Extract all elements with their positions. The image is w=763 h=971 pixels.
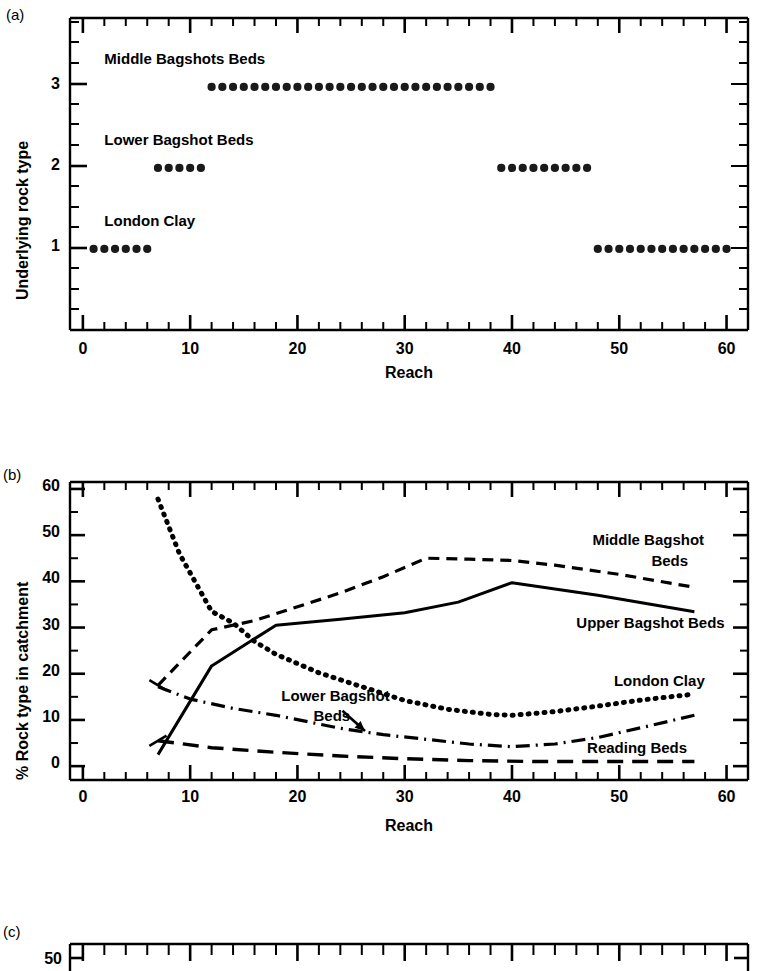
panel-b-y-tick-label: 10 (12, 708, 60, 726)
panel-a-annotation-label: London Clay (104, 212, 195, 229)
panel-a-x-tick-label: 30 (375, 340, 435, 358)
panel-a-x-tick-label: 20 (267, 340, 327, 358)
panel-b-x-tick-label: 40 (482, 788, 542, 806)
panel-a-y-tick-label: 3 (12, 75, 60, 93)
panel-a-x-tick-label: 0 (53, 340, 113, 358)
panel-a-x-tick-label: 10 (160, 340, 220, 358)
panel-a-y-minor-ticks (70, 22, 79, 330)
panel-b-annotation-label: Middle Bagshot (592, 531, 704, 548)
panel-b-x-tick-label: 60 (697, 788, 757, 806)
panel-b-annotation-label: London Clay (614, 672, 705, 689)
panel-b-x-tick-label: 20 (267, 788, 327, 806)
panel-b-x-tick-label: 30 (375, 788, 435, 806)
panel-b-x-tick-label: 10 (160, 788, 220, 806)
panel-a-y-major-ticks (70, 84, 87, 248)
panel-a-x-tick-label: 60 (697, 340, 757, 358)
panel-b: (b) % Rock type in catchment 01020304050… (0, 460, 763, 880)
panel-a-annotation-label: Middle Bagshots Beds (104, 50, 265, 67)
panel-b-x-tick-label: 50 (589, 788, 649, 806)
panel-a-x-tick-label: 40 (482, 340, 542, 358)
panel-b-y-tick-label: 50 (12, 523, 60, 541)
panel-b-x-axis-label: Reach (349, 817, 469, 835)
panel-a-annotation-label: Lower Bagshot Beds (104, 131, 253, 148)
series-line-upper-bagshot-beds (158, 583, 694, 755)
panel-b-y-tick-label: 40 (12, 569, 60, 587)
panel-b-y-tick-label: 30 (12, 616, 60, 634)
panel-b-y-tick-label: 20 (12, 662, 60, 680)
panel-c: (c) 50 (0, 905, 763, 971)
panel-a-x-axis-label: Reach (349, 364, 469, 382)
panel-b-x-tick-label: 0 (53, 788, 113, 806)
panel-b-annotation-label: Beds (651, 552, 688, 569)
panel-a-y-tick-label: 1 (12, 237, 60, 255)
panel-b-y-tick-label: 60 (12, 477, 60, 495)
panel-b-y-tick-label: 0 (12, 754, 60, 772)
panel-a: (a) Underlying rock type (0, 0, 763, 400)
panel-a-x-tick-label: 50 (589, 340, 649, 358)
panel-b-annotation-label: Lower Bagshot (281, 687, 389, 704)
panel-a-y-right-ticks (731, 22, 748, 330)
panel-b-annotation-label: Reading Beds (587, 739, 687, 756)
panel-c-plot (0, 905, 763, 971)
panel-b-annotation-label: Beds (314, 707, 351, 724)
panel-a-y-tick-label: 2 (12, 156, 60, 174)
panel-c-top-ticks (83, 944, 727, 961)
panel-b-annotation-label: Upper Bagshot Beds (576, 614, 724, 631)
